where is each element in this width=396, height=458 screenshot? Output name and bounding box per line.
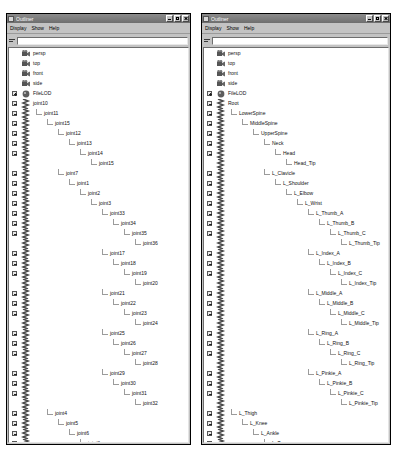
collapse-icon[interactable]: [207, 311, 212, 316]
tree-node-label[interactable]: Head_Tip: [294, 160, 316, 167]
collapse-icon[interactable]: [12, 431, 17, 436]
window-controls[interactable]: [166, 15, 189, 22]
collapse-icon[interactable]: [12, 381, 17, 386]
collapse-icon[interactable]: [12, 171, 17, 176]
collapse-icon[interactable]: [207, 301, 212, 306]
tree-node-label[interactable]: L_Middle_C: [338, 310, 365, 317]
tree-node-label[interactable]: L_Ring_A: [316, 330, 338, 337]
collapse-icon[interactable]: [207, 121, 212, 126]
collapse-icon[interactable]: [12, 211, 17, 216]
collapse-icon[interactable]: [207, 131, 212, 136]
tree-row[interactable]: joint7: [9, 169, 188, 179]
tree-row[interactable]: joint6: [9, 429, 188, 439]
tree-node-label[interactable]: persp: [228, 50, 241, 57]
collapse-icon[interactable]: [12, 111, 17, 116]
tree-node-label[interactable]: L_Pinkie_B: [327, 380, 352, 387]
tree-node-label[interactable]: Neck: [272, 140, 283, 147]
collapse-icon[interactable]: [12, 121, 17, 126]
tree-row[interactable]: Neck: [204, 139, 388, 149]
collapse-icon[interactable]: [12, 291, 17, 296]
collapse-icon[interactable]: [207, 151, 212, 156]
collapse-icon[interactable]: [207, 211, 212, 216]
minimize-button[interactable]: [366, 15, 373, 22]
tree-row[interactable]: Root: [204, 99, 388, 109]
collapse-icon[interactable]: [207, 261, 212, 266]
tree-row[interactable]: joint33: [9, 209, 188, 219]
tree-node-label[interactable]: L_Elbow: [294, 190, 313, 197]
search-input[interactable]: [17, 37, 188, 45]
tree-row[interactable]: joint36: [9, 239, 188, 249]
tree-row[interactable]: joint2: [9, 189, 188, 199]
tree-row[interactable]: joint13: [9, 139, 188, 149]
tree-row[interactable]: L_Pinkie_Tip: [204, 399, 388, 409]
tree-node-label[interactable]: L_Index_A: [316, 250, 340, 257]
tree-row[interactable]: joint34: [9, 219, 188, 229]
tree-node-label[interactable]: joint7: [66, 170, 78, 177]
outliner-tree-right[interactable]: persptopfrontsideFileLODRootLowerSpineMi…: [203, 47, 389, 443]
tree-node-label[interactable]: joint36: [143, 240, 158, 247]
maximize-button[interactable]: [374, 15, 381, 22]
tree-node-label[interactable]: joint35: [132, 230, 147, 237]
tree-row[interactable]: joint24: [9, 319, 188, 329]
tree-row[interactable]: joint4: [9, 409, 188, 419]
tree-node-label[interactable]: joint8: [88, 440, 100, 443]
collapse-icon[interactable]: [207, 201, 212, 206]
tree-node-label[interactable]: L_Index_Tip: [349, 280, 376, 287]
tree-node-label[interactable]: joint11: [44, 110, 58, 117]
collapse-icon[interactable]: [12, 411, 17, 416]
collapse-icon[interactable]: [207, 141, 212, 146]
tree-node-label[interactable]: joint28: [143, 360, 158, 367]
menu-bar[interactable]: Display Show Help: [7, 23, 190, 34]
tree-node-label[interactable]: joint12: [66, 130, 81, 137]
tree-node-label[interactable]: Head: [283, 150, 295, 157]
tree-row[interactable]: UpperSpine: [204, 129, 388, 139]
tree-row[interactable]: joint3: [9, 199, 188, 209]
minimize-button[interactable]: [166, 15, 173, 22]
collapse-icon[interactable]: [207, 181, 212, 186]
tree-node-label[interactable]: joint15: [55, 120, 70, 127]
tree-row[interactable]: joint19: [9, 269, 188, 279]
tree-node-label[interactable]: joint32: [143, 400, 158, 407]
tree-row[interactable]: joint11: [9, 109, 188, 119]
collapse-icon[interactable]: [207, 391, 212, 396]
title-bar[interactable]: Outliner: [7, 14, 190, 23]
tree-row[interactable]: L_Index_B: [204, 259, 388, 269]
tree-row[interactable]: L_Thumb_B: [204, 219, 388, 229]
tree-row[interactable]: top: [204, 59, 388, 69]
tree-row[interactable]: LowerSpine: [204, 109, 388, 119]
tree-row[interactable]: L_Index_C: [204, 269, 388, 279]
tree-node-label[interactable]: L_Knee: [250, 420, 267, 427]
tree-node-label[interactable]: joint30: [121, 380, 136, 387]
tree-row[interactable]: joint10: [9, 99, 188, 109]
tree-row[interactable]: L_Thigh: [204, 409, 388, 419]
tree-node-label[interactable]: joint1: [77, 180, 89, 187]
tree-row[interactable]: joint22: [9, 299, 188, 309]
tree-node-label[interactable]: L_Pinkie_C: [338, 390, 364, 397]
filter-row[interactable]: [202, 34, 390, 47]
tree-row[interactable]: L_Ring_A: [204, 329, 388, 339]
tree-row[interactable]: Head_Tip: [204, 159, 388, 169]
collapse-icon[interactable]: [207, 411, 212, 416]
collapse-icon[interactable]: [12, 131, 17, 136]
tree-node-label[interactable]: joint27: [132, 350, 147, 357]
tree-node-label[interactable]: L_Middle_B: [327, 300, 353, 307]
tree-row[interactable]: L_Index_A: [204, 249, 388, 259]
tree-row[interactable]: L_Thumb_A: [204, 209, 388, 219]
tree-node-label[interactable]: L_Thigh: [239, 410, 257, 417]
tree-row[interactable]: L_Knee: [204, 419, 388, 429]
tree-row[interactable]: L_Middle_C: [204, 309, 388, 319]
tree-row[interactable]: MiddleSpine: [204, 119, 388, 129]
tree-row[interactable]: joint25: [9, 329, 188, 339]
tree-node-label[interactable]: joint19: [132, 270, 147, 277]
tree-row[interactable]: L_Clavicle: [204, 169, 388, 179]
tree-node-label[interactable]: Root: [228, 100, 239, 107]
collapse-icon[interactable]: [12, 391, 17, 396]
title-bar[interactable]: Outliner: [202, 14, 390, 23]
tree-node-label[interactable]: L_Ring_Tip: [349, 360, 374, 367]
tree-node-label[interactable]: joint22: [121, 300, 136, 307]
tree-node-label[interactable]: joint3: [99, 200, 111, 207]
tree-node-label[interactable]: L_Toe: [272, 440, 286, 443]
tree-row[interactable]: top: [9, 59, 188, 69]
tree-node-label[interactable]: L_Thumb_B: [327, 220, 354, 227]
tree-row[interactable]: joint26: [9, 339, 188, 349]
